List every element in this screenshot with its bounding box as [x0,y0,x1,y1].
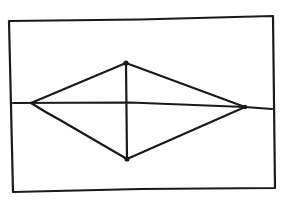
vertical-diagonal-line [126,63,127,159]
rhombus-edge-top-left [31,63,126,103]
rhombus-edge-bottom-left [31,103,127,159]
sketch-canvas [0,0,282,204]
vertex-bottom-marker [124,156,129,161]
vertex-top-marker [123,60,128,65]
rhombus-edge-top-right [126,63,245,107]
rhombus-edge-bottom-right [127,107,245,159]
vertex-right-marker [243,105,247,109]
